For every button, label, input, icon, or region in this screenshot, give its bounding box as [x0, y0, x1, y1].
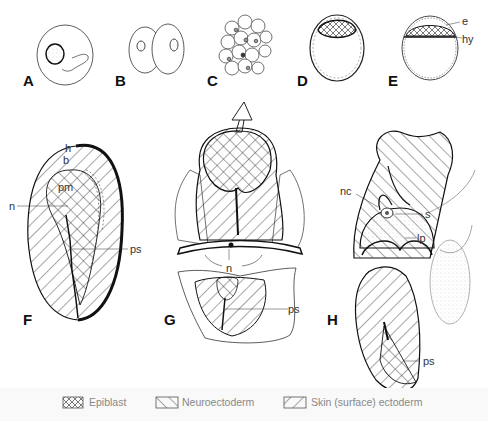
legend-item-epiblast: Epiblast — [63, 396, 126, 408]
panel-g: n ps G — [164, 102, 304, 343]
panel-label-c: C — [207, 72, 218, 89]
annotation-e: e — [462, 15, 468, 27]
panel-label-f: F — [23, 311, 32, 328]
panel-label-h: H — [327, 311, 338, 328]
annotation-s: s — [425, 208, 431, 220]
panel-a: A — [23, 25, 93, 89]
panel-h: nc s lp ps H — [327, 131, 475, 391]
legend-label-neuroectoderm: Neuroectoderm — [182, 396, 255, 408]
panel-label-e: E — [388, 72, 398, 89]
panel-d: D — [297, 15, 364, 89]
panel-e: e hy E — [388, 15, 474, 89]
annotation-ps: ps — [288, 303, 300, 315]
legend-item-neuroectoderm: Neuroectoderm — [156, 396, 255, 408]
legend-item-skin-ectoderm: Skin (surface) ectoderm — [284, 396, 423, 408]
annotation-ps: ps — [423, 355, 435, 367]
forward-hatch-swatch-icon — [156, 397, 178, 408]
panel-f: h b pm n ps F — [9, 142, 142, 328]
annotation-n: n — [226, 262, 232, 274]
annotation-ps: ps — [130, 243, 142, 255]
legend-label-skin-ectoderm: Skin (surface) ectoderm — [311, 396, 423, 408]
annotation-hy: hy — [462, 33, 474, 45]
annotation-h: h — [65, 142, 71, 154]
annotation-lp: lp — [417, 232, 426, 244]
panel-c: C — [207, 15, 272, 89]
annotation-pm: pm — [58, 181, 73, 193]
panel-label-b: B — [115, 72, 126, 89]
embryology-figure: A B C D e hy E — [0, 0, 488, 421]
legend: Epiblast Neuroectoderm Skin (surface) ec… — [0, 388, 488, 421]
panel-label-g: G — [164, 311, 176, 328]
annotation-n: n — [9, 200, 15, 212]
panel-b: B — [115, 24, 184, 89]
panel-label-d: D — [297, 72, 308, 89]
legend-label-epiblast: Epiblast — [89, 396, 126, 408]
panel-label-a: A — [23, 72, 34, 89]
annotation-nc: nc — [340, 185, 352, 197]
crosshatch-swatch-icon — [63, 397, 83, 408]
back-hatch-swatch-icon — [284, 397, 306, 408]
annotation-b: b — [63, 154, 69, 166]
